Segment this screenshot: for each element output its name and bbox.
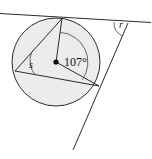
exterior-angle-label: r: [119, 19, 123, 30]
inscribed-angle-label: s: [29, 59, 33, 70]
geometry-diagram-container: 107° s r: [0, 0, 152, 159]
geometry-figure: 107° s r: [0, 0, 152, 159]
upper-tangent-line: [0, 14, 151, 23]
circle-center-dot: [53, 59, 58, 64]
central-angle-label: 107°: [64, 55, 87, 69]
